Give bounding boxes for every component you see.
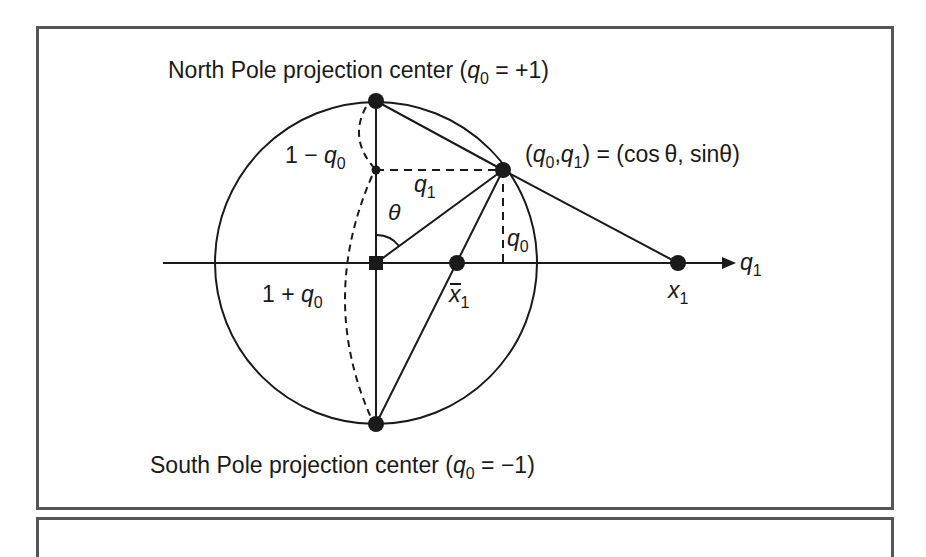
- point-coordinates-label: (q0,q1) = (cos θ, sinθ): [525, 141, 740, 171]
- south-pole-point: [368, 416, 384, 432]
- theta-angle-arc: [376, 235, 399, 246]
- center-square: [369, 256, 383, 270]
- q1-axis-label: q1: [740, 249, 762, 279]
- q0-segment-label: q0: [507, 225, 529, 255]
- q1-segment-label: q1: [414, 171, 436, 201]
- x1-label: x1: [667, 277, 689, 307]
- xbar1-point: [449, 255, 465, 271]
- axis-arrowhead-icon: [722, 257, 736, 269]
- north-pole-label: North Pole projection center (q0 = +1): [168, 57, 549, 87]
- one-minus-q0-arc: [359, 107, 376, 170]
- one-plus-q0-arc: [345, 176, 372, 420]
- xbar1-label: x1: [448, 281, 470, 311]
- one-plus-q0-label: 1 + q0: [262, 281, 323, 311]
- south-pole-label: South Pole projection center (q0 = −1): [150, 452, 535, 482]
- one-minus-q0-label: 1 − q0: [285, 142, 346, 172]
- north-pole-point: [368, 93, 384, 109]
- projection-foot-point: [372, 166, 381, 175]
- north-to-point-line: [376, 101, 503, 170]
- theta-label: θ: [388, 199, 401, 225]
- x1-point: [670, 255, 686, 271]
- point-p: [495, 162, 511, 178]
